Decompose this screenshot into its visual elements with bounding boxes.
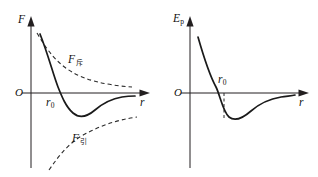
intermolecular-force-and-potential-energy-figure: F O r r0 F斥 F引 Ep O r r0: [0, 0, 318, 177]
panel-force-vs-separation: F O r r0 F斥 F引: [0, 0, 159, 177]
force-axis-label: F: [18, 14, 25, 26]
energy-axis-label: Ep: [173, 13, 184, 25]
repulsive-force-label: F斥: [68, 54, 82, 66]
force-equilibrium-label: r0: [46, 97, 54, 109]
energy-separation-axis-label: r: [299, 97, 303, 109]
attractive-force-label: F引: [72, 133, 86, 145]
energy-origin-label: O: [174, 87, 182, 98]
attractive-force-curve: [49, 117, 137, 170]
energy-equilibrium-label: r0: [218, 74, 226, 86]
force-separation-axis-label: r: [140, 97, 144, 109]
force-origin-label: O: [15, 87, 23, 98]
potential-energy-curve: [198, 37, 295, 119]
energy-y-axis-arrowhead: [186, 16, 193, 27]
force-y-axis-arrowhead: [27, 16, 34, 27]
repulsive-force-curve: [37, 33, 132, 87]
panel-potential-energy-vs-separation: Ep O r r0: [159, 0, 318, 177]
